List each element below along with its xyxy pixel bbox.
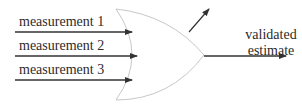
input-label-3: measurement 3	[19, 63, 104, 77]
output-label-line1: validated	[240, 27, 302, 43]
output-label: validated estimate	[240, 27, 302, 59]
input-label-1: measurement 1	[19, 15, 104, 29]
fusion-gate-shape	[116, 9, 204, 100]
reject-arrow	[189, 9, 209, 32]
fusion-diagram: measurement 1 measurement 2 measurement …	[0, 0, 302, 109]
output-label-line2: estimate	[240, 43, 302, 59]
input-label-2: measurement 2	[19, 39, 104, 53]
